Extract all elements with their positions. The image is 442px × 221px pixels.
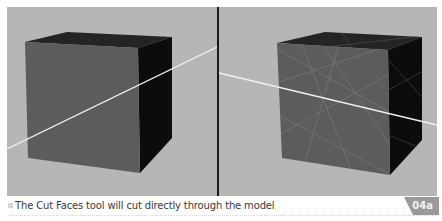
cube-after-cut: [219, 7, 437, 196]
bullet-icon: [8, 203, 13, 208]
cube-before-cut: [7, 7, 217, 196]
figure-caption: The Cut Faces tool will cut directly thr…: [15, 199, 275, 213]
caption-bar: The Cut Faces tool will cut directly thr…: [0, 198, 442, 216]
cube-side-face: [138, 37, 172, 173]
caption-rule: [8, 215, 437, 216]
figure: The Cut Faces tool will cut directly thr…: [0, 0, 442, 221]
figure-number-badge: 04a: [404, 197, 439, 215]
cube-side-face: [388, 37, 422, 175]
viewport-left[interactable]: [7, 7, 217, 196]
figure-number: 04a: [412, 199, 433, 213]
viewport-right[interactable]: [219, 7, 437, 196]
cube-front-face: [25, 42, 140, 173]
